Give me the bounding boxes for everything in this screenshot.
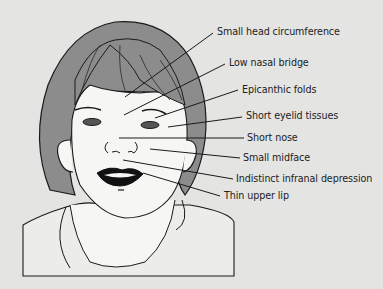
label-short-eyelid-tissues: Short eyelid tissues [246, 110, 338, 121]
label-epicanthic-folds: Epicanthic folds [242, 84, 316, 95]
label-small-head-circumference: Small head circumference [217, 26, 340, 37]
label-indistinct-infranal-depression: Indistinct infranal depression [236, 173, 372, 184]
label-low-nasal-bridge: Low nasal bridge [229, 57, 309, 68]
label-short-nose: Short nose [247, 132, 298, 143]
label-small-midface: Small midface [243, 152, 310, 163]
child-face-illustration [0, 0, 383, 289]
label-thin-upper-lip: Thin upper lip [224, 190, 289, 201]
